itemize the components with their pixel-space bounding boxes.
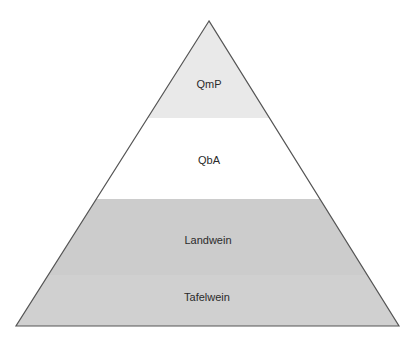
level-qmp-band [0, 0, 412, 118]
level-tafelwein-label: Tafelwein [184, 291, 230, 303]
level-qmp-label: QmP [196, 78, 221, 90]
level-landwein-label: Landwein [184, 234, 231, 246]
wine-quality-pyramid: QmP QbA Landwein Tafelwein [0, 0, 412, 344]
level-qba-label: QbA [198, 154, 221, 166]
